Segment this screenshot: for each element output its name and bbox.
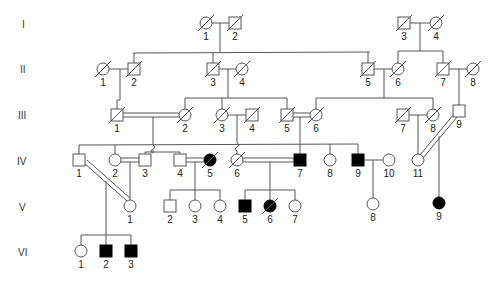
individual-iii-5: 5 [279,107,295,134]
individual-i-3: 3 [396,15,412,42]
individual-ii-4: 4 [234,61,250,88]
generation-label-1: I [22,19,25,30]
individual-iv-7: 7 [294,154,306,179]
individual-number: 5 [207,168,213,179]
individual-number: 4 [433,31,439,42]
individual-number: 1 [114,123,120,134]
individual-number: 11 [413,168,424,179]
female-circle-icon [189,200,201,212]
individual-number: 9 [436,211,442,222]
individual-vi-2: 2 [100,245,112,270]
individual-number: 6 [395,77,401,88]
individual-number: 5 [365,77,371,88]
individual-number: 1 [100,77,106,88]
individual-number: 8 [470,77,476,88]
individual-iv-6: 6 [229,152,245,179]
individual-number: 2 [103,259,109,270]
pedigree-chart: I II III IV V VI [0,0,499,283]
individual-number: 1 [76,168,82,179]
male-square-icon [164,200,176,212]
female-circle-icon [109,154,121,166]
female-circle-icon [324,154,336,166]
individual-number: 8 [370,212,376,223]
individual-i-1: 1 [198,15,214,42]
individual-vi-3: 3 [125,245,137,270]
individual-iii-9: 9 [453,105,465,130]
female-circle-icon [433,197,445,209]
male-square-icon [352,154,364,166]
individual-iv-4: 4 [174,154,186,179]
generation-label-5: V [19,202,26,213]
individual-number: 2 [167,214,173,225]
individual-number: 3 [401,31,407,42]
individual-v-1: 1 [124,200,136,225]
male-square-icon [125,245,137,257]
individual-ii-2: 2 [126,61,142,88]
individual-number: 1 [203,31,209,42]
individual-number: 5 [284,123,290,134]
individual-iii-3: 3 [214,107,230,134]
individual-number: 7 [440,77,446,88]
individual-ii-6: 6 [390,61,406,88]
individual-i-2: 2 [227,15,243,42]
individual-iv-11: 11 [412,154,424,179]
individual-v-8: 8 [367,198,379,223]
female-circle-icon [367,198,379,210]
individual-iv-2: 2 [109,154,121,179]
individual-number: 4 [177,168,183,179]
individual-v-2: 2 [164,200,176,225]
individual-number: 1 [127,214,133,225]
individual-v-5: 5 [239,200,251,225]
female-circle-icon [75,245,87,257]
individual-number: 5 [242,214,248,225]
generation-label-6: VI [18,247,27,258]
individual-number: 3 [210,77,216,88]
individual-iv-8: 8 [324,154,336,179]
female-circle-icon [412,154,424,166]
generation-labels: I II III IV V VI [17,19,27,258]
individual-number: 2 [232,31,238,42]
female-circle-icon [383,154,395,166]
individual-ii-3: 3 [205,61,221,88]
generation-label-4: IV [17,156,27,167]
individual-iii-8: 8 [425,107,441,134]
male-square-icon [174,154,186,166]
individual-iii-6: 6 [308,107,324,134]
individual-number: 6 [234,168,240,179]
female-circle-icon [289,200,301,212]
individual-number: 4 [249,123,255,134]
individual-number: 1 [78,259,84,270]
male-square-icon [100,245,112,257]
individual-ii-7: 7 [435,61,451,88]
individual-number: 9 [456,119,462,130]
female-circle-icon [214,200,226,212]
individual-i-4: 4 [428,15,444,42]
individual-number: 7 [297,168,303,179]
individual-number: 7 [292,214,298,225]
individual-vi-1: 1 [75,245,87,270]
individual-iv-9: 9 [352,154,364,179]
male-square-icon [139,154,151,166]
male-square-icon [239,200,251,212]
individual-iii-2: 2 [177,107,193,134]
generation-label-3: III [18,110,26,121]
individual-number: 8 [327,168,333,179]
individual-number: 3 [219,123,225,134]
individual-number: 3 [128,259,134,270]
individual-iii-1: 1 [109,107,125,134]
individual-iv-5: 5 [202,152,218,179]
individual-number: 9 [355,168,361,179]
individual-number: 6 [313,123,319,134]
male-square-icon [453,105,465,117]
individual-number: 6 [267,214,273,225]
individual-number: 3 [192,214,198,225]
individual-number: 2 [182,123,188,134]
individual-v-9: 9 [433,197,445,222]
individual-v-7: 7 [289,200,301,225]
individual-number: 2 [112,168,118,179]
generation-label-2: II [20,64,26,75]
male-square-icon [294,154,306,166]
individual-iii-7: 7 [395,107,411,134]
individual-number: 3 [142,168,148,179]
individual-v-6: 6 [262,198,278,225]
